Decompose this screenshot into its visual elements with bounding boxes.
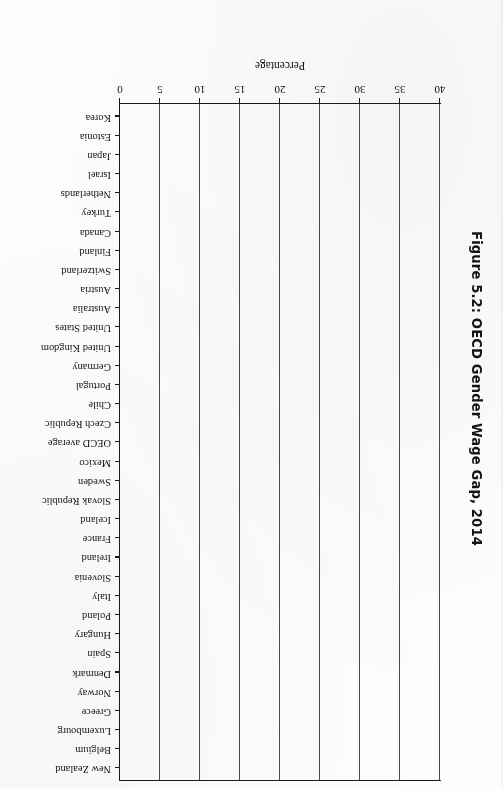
bar-row [120,226,274,238]
bar-row [120,111,414,123]
bar-row [120,532,227,544]
value-axis-title: Percentage [220,60,340,72]
bar-row [120,168,294,180]
bar-row [120,437,240,449]
value-axis-tick-label: 25 [300,84,340,96]
category-axis-tick [115,250,120,251]
category-label: Ireland [82,553,111,565]
category-axis-tick [115,135,120,136]
value-axis-tick-label: 5 [140,84,180,96]
bar-row [120,302,260,314]
value-axis-tick [439,98,440,104]
bar-row [120,513,229,525]
category-axis-tick [115,767,120,768]
value-axis-tick-label: 20 [260,84,300,96]
bar-row [120,743,161,755]
bar-row [120,341,259,353]
category-label: United States [55,323,111,335]
category-label: Slovak Republic [42,495,111,507]
bar-row [120,130,372,142]
category-label: Portugal [76,380,111,392]
bar-row [120,628,190,640]
category-axis-tick [115,269,120,270]
gridline [279,104,280,780]
value-axis-tick [319,98,320,104]
value-axis-tick [199,98,200,104]
value-axis-tick-label: 0 [100,84,140,96]
category-label: Austria [80,284,111,296]
category-axis-tick [115,480,120,481]
gridline [359,104,360,780]
category-label: OECD average [48,438,111,450]
category-label: Chile [88,399,111,411]
bar-row [120,149,333,161]
category-label: Canada [80,227,111,239]
category-axis-tick [115,614,120,615]
bar-row [120,667,176,679]
category-label: New Zealand [55,763,111,775]
category-axis-tick [115,441,120,442]
category-label: Germany [72,361,111,373]
bar-row [120,571,217,583]
category-axis-tick [115,633,120,634]
category-label: Slovenia [75,572,111,584]
bar-row [120,686,170,698]
category-label: Netherlands [61,188,111,200]
category-axis-tick [115,748,120,749]
category-label: Greece [82,706,111,718]
category-axis-tick [115,346,120,347]
bar-row [120,647,189,659]
category-axis-tick [115,307,120,308]
category-label: Switzerland [61,265,111,277]
category-axis-tick [115,595,120,596]
category-label: Norway [78,687,111,699]
category-axis-tick [115,231,120,232]
category-label: Korea [86,112,111,124]
category-axis-tick [115,173,120,174]
category-label: Luxembourg [58,725,112,737]
bar-row [120,379,255,391]
category-axis-tick [115,461,120,462]
bar-row [120,705,169,717]
bar-row [120,762,157,774]
category-label: Turkey [81,208,111,220]
bar-row [120,417,241,429]
value-axis-tick-label: 35 [380,84,420,96]
category-label: Japan [87,150,111,162]
category-axis-tick [115,403,120,404]
category-axis-tick [115,537,120,538]
bar-row [120,264,265,276]
category-axis-tick [115,154,120,155]
category-label: Australia [73,303,111,315]
gridline [439,104,440,780]
value-axis-tick-label: 30 [340,84,380,96]
bar-row [120,398,249,410]
bar-row [120,207,281,219]
category-axis-tick [115,691,120,692]
category-axis-tick [115,576,120,577]
value-axis-tick-label: 40 [420,84,460,96]
category-axis-tick [115,288,120,289]
category-label: Finland [79,246,111,258]
gridline [399,104,400,780]
category-label: United Kingdom [41,342,111,354]
category-axis-tick [115,556,120,557]
value-axis-tick [239,98,240,104]
category-label: Belgium [75,744,111,756]
category-axis-tick [115,499,120,500]
category-label: Hungary [75,629,111,641]
category-label: Sweden [78,476,111,488]
value-axis-tick [359,98,360,104]
category-axis-tick [115,365,120,366]
category-axis-tick [115,326,120,327]
category-label: France [83,533,111,545]
category-axis-tick [115,116,120,117]
category-axis-tick [115,422,120,423]
category-label: Iceland [80,514,111,526]
category-axis-tick [115,192,120,193]
category-label: Italy [92,591,111,603]
bar-row [120,590,209,602]
bar-row [120,322,260,334]
category-label: Estonia [80,131,111,143]
bar-row [120,187,284,199]
